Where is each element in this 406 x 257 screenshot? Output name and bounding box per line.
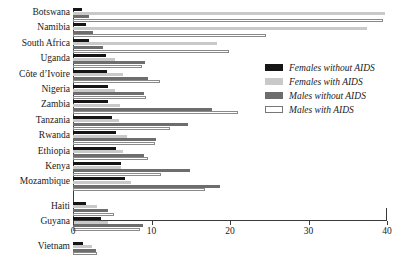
x-tick-label: 10	[137, 226, 167, 236]
bar-group	[73, 177, 387, 192]
bar-0	[73, 147, 116, 150]
bar-2	[73, 169, 190, 172]
y-label-uganda: Uganda	[0, 53, 70, 63]
bar-2	[73, 138, 156, 141]
bar-group	[73, 23, 387, 38]
bar-1	[73, 205, 97, 208]
bar-1	[73, 150, 123, 153]
bar-3	[73, 173, 161, 176]
bar-0	[73, 70, 107, 73]
bar-2	[73, 31, 93, 34]
bar-0	[73, 85, 108, 88]
bar-3	[73, 157, 148, 160]
x-tick	[387, 221, 388, 225]
bar-1	[73, 12, 385, 15]
bar-0	[73, 217, 101, 220]
bar-2	[73, 46, 103, 49]
bar-3	[73, 252, 97, 255]
bar-1	[73, 166, 121, 169]
bar-group	[73, 131, 387, 146]
y-label-mozambique: Mozambique	[0, 176, 70, 186]
legend-swatch-icon	[265, 106, 283, 113]
y-label-tanzania: Tanzania	[0, 115, 70, 125]
bar-1	[73, 58, 115, 61]
bar-2	[73, 108, 212, 111]
bar-1	[73, 119, 119, 122]
bar-group	[73, 147, 387, 162]
bar-1	[73, 181, 131, 184]
y-label-botswana: Botswana	[0, 7, 70, 17]
bar-2	[73, 209, 108, 212]
bar-3	[73, 127, 170, 130]
bar-3	[73, 142, 155, 145]
y-label-haiti: Haiti	[0, 201, 70, 211]
bar-2	[73, 123, 188, 126]
legend-label: Males with AIDS	[289, 105, 354, 115]
bar-3	[73, 96, 146, 99]
y-label-zambia: Zambia	[0, 99, 70, 109]
bar-group	[73, 8, 387, 23]
bar-1	[73, 42, 217, 45]
legend-item: Males without AIDS	[265, 89, 403, 102]
y-axis-category-labels: BotswanaNamibiaSouth AfricaUgandaCôte d’…	[0, 8, 70, 220]
bar-group	[73, 242, 387, 257]
y-label-vietnam: Vietnam	[0, 241, 70, 251]
legend-item: Females without AIDS	[265, 61, 403, 74]
y-label-c-te-d-ivoire: Côte d’Ivoire	[0, 69, 70, 79]
bar-2	[73, 92, 144, 95]
legend-label: Females without AIDS	[289, 63, 375, 73]
bar-2	[73, 61, 145, 64]
bar-group	[73, 39, 387, 54]
x-tick	[230, 221, 231, 225]
bar-1	[73, 221, 108, 224]
bar-3	[73, 65, 142, 68]
bar-group	[73, 162, 387, 177]
bar-2	[73, 185, 220, 188]
y-label-nigeria: Nigeria	[0, 84, 70, 94]
bar-1	[73, 27, 367, 30]
bar-0	[73, 177, 125, 180]
x-tick-label: 20	[215, 226, 245, 236]
y-label-namibia: Namibia	[0, 22, 70, 32]
bar-3	[73, 188, 205, 191]
bar-1	[73, 73, 123, 76]
bar-0	[73, 100, 108, 103]
y-label-rwanda: Rwanda	[0, 130, 70, 140]
y-label-guyana: Guyana	[0, 216, 70, 226]
bar-group	[73, 202, 387, 217]
legend-label: Females with AIDS	[289, 77, 363, 87]
y-label-ethiopia: Ethiopia	[0, 146, 70, 156]
y-label-kenya: Kenya	[0, 161, 70, 171]
bar-1	[73, 135, 127, 138]
chart-legend: Females without AIDSFemales with AIDSMal…	[265, 61, 403, 117]
x-tick	[309, 221, 310, 225]
bar-3	[73, 50, 229, 53]
x-tick	[152, 221, 153, 225]
bar-group	[73, 116, 387, 131]
bar-1	[73, 245, 92, 248]
bar-2	[73, 154, 144, 157]
bar-0	[73, 23, 86, 26]
bar-2	[73, 15, 89, 18]
bar-3	[73, 111, 238, 114]
bar-1	[73, 89, 115, 92]
bar-2	[73, 77, 148, 80]
legend-swatch-icon	[265, 78, 283, 85]
legend-item: Males with AIDS	[265, 103, 403, 116]
bar-3	[73, 19, 383, 22]
bar-0	[73, 116, 112, 119]
legend-label: Males without AIDS	[289, 91, 366, 101]
bar-3	[73, 213, 114, 216]
legend-item: Females with AIDS	[265, 75, 403, 88]
x-tick-label: 40	[372, 226, 402, 236]
bar-0	[73, 162, 121, 165]
bar-0	[73, 39, 89, 42]
bar-0	[73, 202, 86, 205]
bar-0	[73, 8, 82, 11]
bar-1	[73, 104, 120, 107]
legend-swatch-icon	[265, 92, 283, 99]
bar-0	[73, 54, 106, 57]
bar-0	[73, 131, 116, 134]
bar-0	[73, 242, 83, 245]
